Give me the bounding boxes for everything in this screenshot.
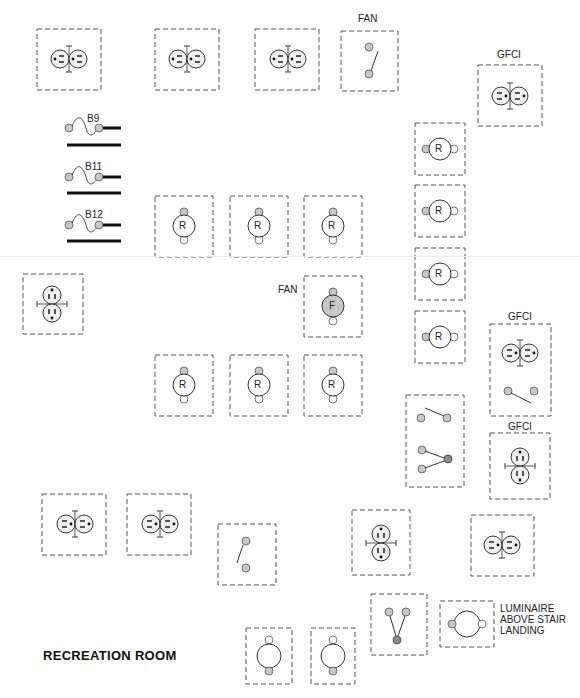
receptacle-letter: R: [254, 379, 261, 390]
breaker-b11-label: B11: [85, 161, 102, 172]
duplex-receptacle-icon: [484, 532, 520, 558]
diagram-svg: [0, 0, 580, 698]
gfci-receptacle-icon: [502, 340, 538, 366]
luminaire-note-line-2: ABOVE STAIR: [500, 614, 566, 625]
switch-icon: [504, 387, 538, 403]
luminaire-note-line-3: LANDING: [500, 625, 566, 636]
switch-v-icon: [385, 608, 410, 644]
switch-icon: [237, 537, 250, 572]
box-switch-bottom: [218, 524, 276, 585]
box-gfci-switch: [490, 324, 551, 416]
duplex-receptacle-icon: [270, 46, 306, 72]
gfci-vertical-label: GFCI: [508, 421, 532, 432]
box-fan-switch: [341, 31, 398, 91]
receptacle-letter: R: [254, 220, 261, 231]
room-title: RECREATION ROOM: [43, 648, 177, 663]
fan-switch-label: FAN: [358, 13, 377, 24]
receptacle-letter: R: [328, 379, 335, 390]
breaker-b9-label: B9: [87, 113, 99, 124]
gfci-top-label: GFCI: [497, 49, 521, 60]
box-switch-v: [371, 594, 427, 655]
receptacle-letter: R: [328, 220, 335, 231]
receptacle-letter: R: [179, 379, 186, 390]
receptacle-letter: R: [179, 220, 186, 231]
fan-fixture-label: FAN: [278, 284, 297, 295]
gfci-receptacle-vertical-icon: [505, 448, 535, 484]
duplex-receptacle-vertical-icon: [366, 525, 396, 561]
duplex-receptacle-icon: [57, 511, 93, 537]
receptacle-letter: R: [435, 331, 442, 342]
three-way-switch-icon: [417, 408, 452, 473]
duplex-receptacle-icon: [142, 511, 178, 537]
luminaire-note: LUMINAIRE ABOVE STAIR LANDING: [500, 603, 566, 636]
receptacle-letter: R: [435, 268, 442, 279]
duplex-receptacle-vertical-icon: [37, 286, 67, 322]
luminaire-icon: [257, 636, 281, 675]
gfci-switch-label: GFCI: [508, 311, 532, 322]
gfci-receptacle-icon: [492, 83, 528, 109]
fan-switch-icon: [365, 43, 378, 78]
scan-artifact-line: [0, 256, 580, 257]
receptacle-letter: R: [435, 205, 442, 216]
receptacle-letter: R: [435, 143, 442, 154]
box-three-way: [406, 395, 464, 487]
breaker-b12-label: B12: [85, 209, 103, 220]
luminaire-icon: [321, 636, 345, 675]
duplex-receptacle-icon: [51, 46, 87, 72]
luminaire-stair-icon: [448, 611, 486, 637]
luminaire-note-line-1: LUMINAIRE: [500, 603, 566, 614]
fan-fixture-letter: F: [329, 300, 335, 311]
duplex-receptacle-icon: [169, 46, 205, 72]
wiring-diagram: FAN GFCI B9 B11 B12 R R R R R R R FAN F …: [0, 0, 580, 698]
